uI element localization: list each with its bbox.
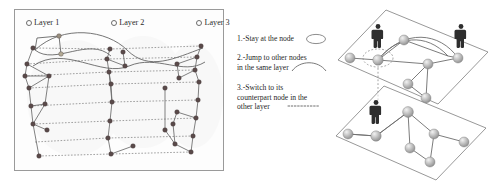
stacked-layers-diagram [330, 2, 496, 182]
lower-plane-outline [336, 86, 486, 180]
rule-item-3: 3.-Switch to its counterpart node in the… [237, 83, 345, 111]
rule-1-line-1: 1.-Stay at the node [237, 34, 345, 43]
highlighted-node-upper [373, 55, 383, 65]
flattened-network-panel-inner: Layer 1 Layer 2 Layer 3 [15, 10, 223, 170]
rule-2-line-2: in the same layer [237, 63, 345, 72]
rule-3-line-2: counterpart node in the [237, 93, 345, 102]
rule-item-1: 1.-Stay at the node [237, 34, 345, 43]
flattened-network-panel: Layer 1 Layer 2 Layer 3 [14, 9, 224, 171]
rule-item-2: 2.-Jump to other nodes in the same layer [237, 53, 345, 72]
flattened-network-graph [15, 26, 223, 170]
figure-canvas: Layer 1 Layer 2 Layer 3 [0, 0, 496, 182]
upper-layer-plane [338, 10, 488, 104]
transition-rules-legend: 1.-Stay at the node 2.-Jump to other nod… [237, 34, 345, 111]
rule-3-line-1: 3.-Switch to its [237, 83, 345, 92]
rule-3-line-3: other layer [237, 102, 345, 111]
lower-layer-plane [336, 86, 486, 180]
upper-plane-outline [338, 10, 488, 104]
rule-2-line-1: 2.-Jump to other nodes [237, 53, 345, 62]
counterpart-node-lower [371, 131, 381, 141]
